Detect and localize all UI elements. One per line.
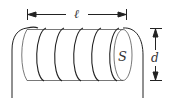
left-lead-wire xyxy=(12,28,27,98)
coil-turns xyxy=(27,27,119,81)
diameter-label: d xyxy=(151,51,159,65)
solenoid-diagram: ℓ S d xyxy=(0,0,171,98)
area-label: S xyxy=(118,49,127,64)
length-label: ℓ xyxy=(74,7,79,21)
